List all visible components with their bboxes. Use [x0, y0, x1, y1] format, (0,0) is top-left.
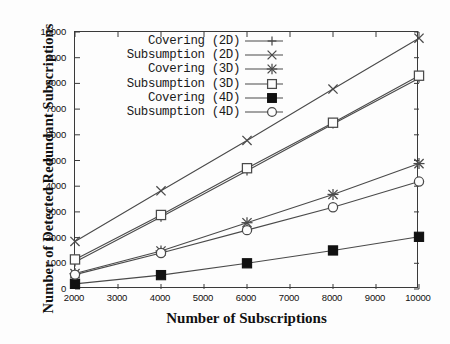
- data-marker-star: [267, 64, 278, 75]
- legend-item-marker: [244, 62, 284, 76]
- data-marker-open-square: [414, 71, 423, 80]
- data-marker-filled-square: [70, 279, 79, 288]
- legend-item-label: Covering (2D): [84, 34, 244, 48]
- data-marker-open-circle: [414, 177, 423, 186]
- data-marker-star: [413, 158, 424, 169]
- data-marker-open-square: [70, 255, 79, 264]
- legend-item-label: Subsumption (4D): [84, 105, 244, 119]
- data-marker-filled-square: [328, 246, 337, 255]
- legend-item: Subsumption (4D): [84, 105, 284, 119]
- data-marker-open-circle: [268, 108, 277, 117]
- legend-item-marker: [244, 48, 284, 62]
- legend-item: Subsumption (2D): [84, 48, 284, 62]
- data-marker-filled-square: [242, 259, 251, 268]
- data-marker-cross: [242, 136, 251, 145]
- data-marker-open-square: [268, 79, 277, 88]
- chart-legend: Covering (2D)Subsumption (2D)Covering (3…: [84, 34, 284, 119]
- data-marker-open-square: [242, 164, 251, 173]
- data-marker-filled-square: [156, 271, 165, 280]
- legend-item-marker: [244, 77, 284, 91]
- data-marker-open-circle: [156, 248, 165, 257]
- legend-item-label: Subsumption (3D): [84, 77, 244, 91]
- data-marker-open-circle: [328, 203, 337, 212]
- data-marker-filled-square: [268, 93, 277, 102]
- data-marker-cross: [156, 186, 165, 195]
- data-marker-filled-square: [414, 232, 423, 241]
- x-tick-label: 10000: [388, 292, 448, 303]
- data-marker-open-circle: [242, 226, 251, 235]
- legend-item-marker: [244, 105, 284, 119]
- chart-figure: Number of Detected Redundant Subscriptio…: [0, 0, 450, 344]
- legend-item-marker: [244, 34, 284, 48]
- legend-item: Covering (3D): [84, 62, 284, 76]
- data-marker-open-circle: [70, 270, 79, 279]
- data-marker-open-square: [156, 210, 165, 219]
- legend-item: Subsumption (3D): [84, 77, 284, 91]
- legend-item: Covering (2D): [84, 34, 284, 48]
- data-marker-star: [327, 189, 338, 200]
- legend-item: Covering (4D): [84, 91, 284, 105]
- data-marker-plus: [268, 37, 277, 46]
- legend-item-label: Subsumption (2D): [84, 48, 244, 62]
- data-marker-open-square: [328, 118, 337, 127]
- data-marker-cross: [328, 84, 337, 93]
- legend-item-label: Covering (3D): [84, 62, 244, 76]
- legend-item-label: Covering (4D): [84, 91, 244, 105]
- legend-item-marker: [244, 91, 284, 105]
